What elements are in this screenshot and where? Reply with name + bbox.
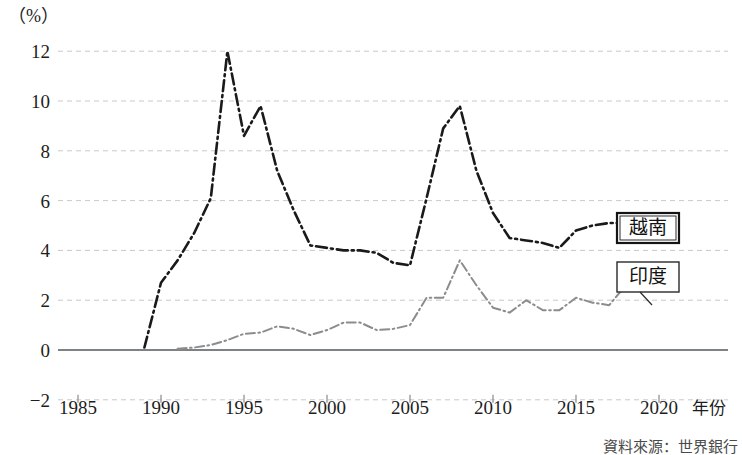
- y-axis-unit-label: （%）: [8, 6, 59, 26]
- x-axis-tick-label: 2020: [640, 397, 678, 418]
- x-axis-tick-label: 1985: [59, 397, 97, 418]
- vietnam-legend-box: 越南: [617, 213, 679, 243]
- x-axis-tick-label: 1995: [225, 397, 263, 418]
- x-axis-title: 年份: [692, 399, 726, 418]
- x-axis-tick-label: 2015: [557, 397, 595, 418]
- y-axis-tick-labels: 121086420−2: [30, 41, 51, 411]
- y-axis-tick-label: 0: [41, 340, 51, 361]
- y-axis-tick-label: 12: [31, 41, 50, 62]
- y-axis-tick-label: 10: [31, 91, 50, 112]
- y-axis-tick-label: 4: [41, 240, 51, 261]
- y-axis-tick-label: 6: [41, 191, 51, 212]
- y-axis-tick-label: 8: [41, 141, 51, 162]
- series-line-india: [178, 260, 626, 348]
- india-legend-box: 印度: [617, 262, 679, 305]
- india-legend-pointer: [640, 292, 652, 305]
- line-chart: 121086420−2 1985199019952000200520102015…: [0, 0, 742, 455]
- x-axis-tick-label: 2010: [474, 397, 512, 418]
- series-line-vietnam: [144, 51, 625, 347]
- source-note: 資料來源：世界銀行: [603, 438, 738, 455]
- y-axis-tick-label: −2: [30, 390, 50, 411]
- vietnam-legend-label: 越南: [629, 217, 667, 238]
- x-axis-tick-label: 2005: [391, 397, 429, 418]
- x-axis-tick-label: 1990: [142, 397, 180, 418]
- series-layer: [144, 51, 625, 349]
- y-axis-tick-label: 2: [41, 290, 51, 311]
- india-legend-label: 印度: [629, 266, 667, 287]
- chart-container: 121086420−2 1985199019952000200520102015…: [0, 0, 742, 455]
- x-axis-tick-label: 2000: [308, 397, 346, 418]
